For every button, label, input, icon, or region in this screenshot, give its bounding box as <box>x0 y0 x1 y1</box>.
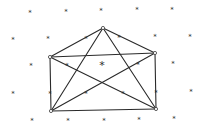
star-marker-icon: * <box>136 61 140 69</box>
star-marker-icon: * <box>172 115 176 123</box>
star-marker-icon: * <box>46 35 50 43</box>
star-marker-icon: * <box>137 116 141 124</box>
star-marker-icon: * <box>48 90 52 98</box>
star-marker-icon: * <box>99 59 105 72</box>
edge-apex-top-left <box>50 28 103 57</box>
star-marker-icon: * <box>153 33 157 41</box>
star-marker-icon: * <box>84 90 88 98</box>
star-marker-icon: * <box>30 117 34 125</box>
vertex-apex <box>101 26 104 29</box>
edge-top-left-bottom-left <box>50 57 51 111</box>
star-marker-icon: * <box>188 33 192 41</box>
star-marker-icon: * <box>171 60 175 68</box>
edge-bottom-left-bottom-right <box>51 109 156 111</box>
star-marker-icon: * <box>65 62 69 70</box>
star-marker-icon: * <box>121 90 125 98</box>
star-marker-icon: * <box>29 62 33 70</box>
star-marker-icon: * <box>135 6 139 14</box>
vertex-bottom-left <box>49 109 52 112</box>
vertex-bottom-right <box>154 107 157 110</box>
vertex-top-right <box>153 51 156 54</box>
star-marker-icon: * <box>170 6 174 14</box>
star-marker-icon: * <box>66 117 70 125</box>
envelope-diagram: *************************** <box>0 0 202 125</box>
star-marker-icon: * <box>64 8 68 16</box>
star-marker-icon: * <box>11 36 15 44</box>
star-marker-icon: * <box>99 7 103 15</box>
edge-top-left-top-right <box>50 53 155 57</box>
star-marker-icon: * <box>84 35 88 43</box>
star-markers: *************************** <box>11 6 193 125</box>
edge-apex-bottom-left <box>51 28 103 111</box>
vertex-top-left <box>48 55 51 58</box>
star-marker-icon: * <box>28 9 32 17</box>
star-marker-icon: * <box>154 89 158 97</box>
star-marker-icon: * <box>102 117 106 125</box>
star-marker-icon: * <box>117 34 121 42</box>
star-marker-icon: * <box>11 90 15 98</box>
edge-top-right-bottom-right <box>155 53 156 109</box>
star-marker-icon: * <box>189 88 193 96</box>
